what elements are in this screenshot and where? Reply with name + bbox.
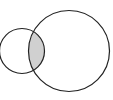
- venn-diagram: [0, 0, 113, 100]
